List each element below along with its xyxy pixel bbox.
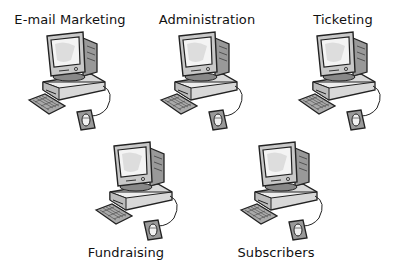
node-label-admin: Administration — [159, 12, 256, 27]
computer-icon — [25, 30, 120, 135]
node-label-ticketing: Ticketing — [313, 12, 372, 27]
computer-icon — [237, 140, 332, 245]
node-label-email: E-mail Marketing — [14, 12, 125, 27]
computer-icon — [157, 30, 252, 135]
computer-icon — [92, 140, 187, 245]
node-label-fundraising: Fundraising — [88, 245, 164, 260]
computer-icon — [295, 30, 390, 135]
node-label-subscribers: Subscribers — [237, 245, 314, 260]
